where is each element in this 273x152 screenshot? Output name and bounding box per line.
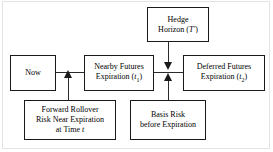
node-deferred-futures-line2-suffix: )	[244, 72, 247, 81]
edge-basis-risk-to-timeline	[168, 81, 169, 100]
node-basis-risk-label: Basis Riskbefore Expiration	[138, 110, 198, 130]
arrowhead-down-icon	[164, 62, 172, 70]
node-deferred-futures-line2-prefix: Expiration (	[201, 72, 239, 81]
node-basis-risk: Basis Riskbefore Expiration	[130, 100, 206, 140]
node-forward-rollover-line1: Forward Rollover	[41, 105, 98, 114]
node-basis-risk-line2: before Expiration	[140, 120, 196, 129]
node-nearby-futures-line2-suffix: )	[139, 72, 142, 81]
node-hedge-horizon-line2-prefix: Horizon (	[158, 25, 189, 34]
node-nearby-futures-line2-prefix: Expiration (	[96, 72, 134, 81]
node-forward-rollover-line2: Risk Near Expiration	[36, 115, 104, 124]
node-forward-rollover-label: Forward RolloverRisk Near Expirationat T…	[34, 105, 106, 134]
node-now: Now	[10, 55, 56, 91]
node-now-label: Now	[23, 68, 43, 78]
node-basis-risk-line1: Basis Risk	[151, 110, 185, 119]
node-forward-rollover-symbol: t	[82, 125, 84, 134]
node-forward-rollover-line3-prefix: at Time	[56, 125, 82, 134]
edge-forward-rollover-to-timeline	[68, 78, 69, 100]
node-hedge-horizon-line1: Hedge	[168, 15, 189, 24]
arrowhead-up-icon	[164, 73, 172, 81]
node-deferred-futures-label: Deferred FuturesExpiration (t2)	[195, 62, 253, 84]
node-nearby-futures-line1: Nearby Futures	[94, 62, 144, 71]
node-hedge-horizon-line2-suffix: )	[195, 25, 198, 34]
node-forward-rollover: Forward RolloverRisk Near Expirationat T…	[24, 100, 116, 140]
node-hedge-horizon-label: HedgeHorizon (T′)	[156, 15, 200, 35]
node-deferred-futures-line1: Deferred Futures	[197, 62, 251, 71]
node-hedge-horizon: HedgeHorizon (T′)	[147, 7, 209, 42]
diagram-canvas: HedgeHorizon (T′) Now Nearby FuturesExpi…	[0, 0, 273, 152]
node-deferred-futures: Deferred FuturesExpiration (t2)	[183, 55, 265, 91]
node-nearby-futures: Nearby FuturesExpiration (t1)	[84, 55, 154, 91]
node-nearby-futures-label: Nearby FuturesExpiration (t1)	[92, 62, 146, 84]
arrowhead-up-icon	[64, 70, 72, 78]
edge-hedge-horizon-to-timeline	[168, 42, 169, 64]
